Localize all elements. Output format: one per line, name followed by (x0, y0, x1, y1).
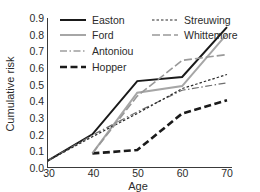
x-tick-4: 70 (221, 167, 233, 179)
y-tick-6: 0.3 (29, 112, 44, 124)
cumulative-risk-line-chart: 0.9 0.8 0.7 0.6 0.5 0.4 0.3 0.2 0.1 0.0 … (0, 0, 260, 192)
series-layer (48, 27, 228, 161)
chart-legend: Easton Streuwing Ford Whittemore Antonio… (60, 14, 238, 73)
chart-canvas: 0.9 0.8 0.7 0.6 0.5 0.4 0.3 0.2 0.1 0.0 … (0, 0, 260, 192)
x-tick-3: 60 (177, 167, 189, 179)
y-tick-1: 0.8 (29, 29, 44, 41)
legend-label-ford: Ford (92, 29, 114, 41)
y-tick-8: 0.1 (29, 145, 44, 157)
y-tick-7: 0.2 (29, 129, 44, 141)
y-tick-5: 0.4 (29, 95, 44, 107)
legend-label-streuwing: Streuwing (184, 14, 231, 26)
legend-label-antoniou: Antoniou (92, 45, 134, 57)
x-axis-title: Age (128, 180, 148, 192)
y-tick-4: 0.5 (29, 79, 44, 91)
y-axis-title: Cumulative risk (4, 56, 16, 132)
y-tick-0: 0.9 (29, 12, 44, 24)
y-tick-3: 0.6 (29, 62, 44, 74)
x-tick-1: 40 (88, 167, 100, 179)
x-tick-2: 50 (132, 167, 144, 179)
y-tick-9: 0.0 (29, 162, 44, 174)
series-line-streuwing (48, 74, 228, 160)
y-axis-tick-labels: 0.9 0.8 0.7 0.6 0.5 0.4 0.3 0.2 0.1 0.0 (29, 12, 44, 174)
x-tick-0: 30 (43, 167, 55, 179)
legend-label-easton: Easton (92, 14, 125, 26)
legend-label-whittemore: Whittemore (184, 29, 238, 41)
legend-label-hopper: Hopper (92, 61, 127, 73)
y-tick-2: 0.7 (29, 45, 44, 57)
x-axis-tick-labels: 30 40 50 60 70 (43, 167, 233, 179)
